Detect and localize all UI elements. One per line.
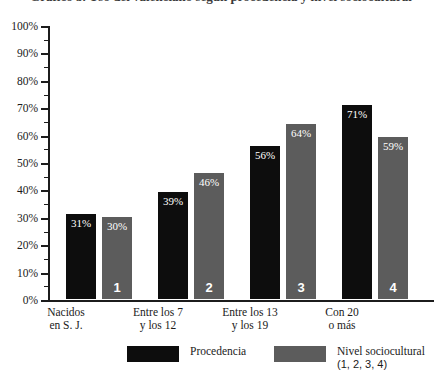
y-tick-minor-75 [44, 95, 48, 96]
y-tick-100 [41, 26, 48, 28]
plot-area: 100% 90% 80% 70% 60% 50% 40% 30% 20% 10%… [48, 26, 434, 301]
y-label-40: 40% [17, 184, 38, 196]
legend-label-nivel-line1: Nivel sociocultural [337, 345, 425, 358]
bar-procedencia-3[interactable]: 56% [250, 146, 280, 299]
bar-nivel-3[interactable]: 64% 3 [286, 124, 316, 299]
y-tick-60 [41, 136, 48, 138]
chart-title-text: Gráfico 3. Uso del valenciano según proc… [0, 0, 442, 5]
bar-nivel-2[interactable]: 46% 2 [194, 173, 224, 299]
y-label-30: 30% [17, 212, 38, 224]
y-label-20: 20% [17, 239, 38, 251]
y-tick-minor-95 [44, 40, 48, 41]
y-label-70: 70% [17, 102, 38, 114]
bar-procedencia-2[interactable]: 39% [158, 192, 188, 299]
chart-legend: Procedencia Nivel sociocultural (1, 2, 3… [0, 345, 442, 379]
y-tick-10 [41, 273, 48, 275]
y-tick-40 [41, 190, 48, 192]
y-tick-70 [41, 108, 48, 110]
bar-value-label: 30% [102, 221, 132, 232]
bar-procedencia-1[interactable]: 31% [66, 214, 96, 299]
bar-group-number: 3 [286, 281, 316, 294]
y-label-80: 80% [17, 75, 38, 87]
y-tick-80 [41, 81, 48, 83]
legend-item-nivel[interactable]: Nivel sociocultural (1, 2, 3, 4) [274, 345, 425, 371]
bar-procedencia-4[interactable]: 71% [342, 105, 372, 300]
y-label-100: 100% [11, 20, 38, 32]
y-tick-minor-55 [44, 149, 48, 150]
y-tick-20 [41, 245, 48, 247]
bar-group-number: 4 [378, 281, 408, 294]
y-tick-30 [41, 218, 48, 220]
legend-label-procedencia: Procedencia [190, 345, 246, 358]
legend-label-nivel: Nivel sociocultural (1, 2, 3, 4) [337, 345, 425, 371]
bar-chart: Gráfico 3. Uso del valenciano según proc… [0, 0, 442, 379]
y-tick-minor-65 [44, 122, 48, 123]
bar-value-label: 59% [378, 141, 408, 152]
y-label-10: 10% [17, 267, 38, 279]
legend-swatch-nivel [274, 346, 326, 362]
bar-nivel-4[interactable]: 59% 4 [378, 137, 408, 299]
bar-value-label: 46% [194, 177, 224, 188]
y-tick-0 [41, 300, 48, 302]
legend-label-nivel-line2: (1, 2, 3, 4) [337, 358, 425, 371]
bar-group-number: 1 [102, 281, 132, 294]
category-label-4-line2: o más [287, 319, 397, 332]
y-tick-minor-15 [44, 259, 48, 260]
bar-value-label: 64% [286, 128, 316, 139]
y-tick-50 [41, 163, 48, 165]
y-tick-minor-45 [44, 177, 48, 178]
y-tick-minor-5 [44, 286, 48, 287]
y-tick-minor-85 [44, 67, 48, 68]
y-label-90: 90% [17, 47, 38, 59]
y-label-50: 50% [17, 157, 38, 169]
y-label-0: 0% [23, 294, 38, 306]
y-tick-minor-35 [44, 204, 48, 205]
x-axis-baseline [48, 300, 434, 302]
legend-item-procedencia[interactable]: Procedencia [127, 345, 246, 362]
bar-group-number: 2 [194, 281, 224, 294]
bar-value-label: 39% [158, 196, 188, 207]
bar-value-label: 31% [66, 218, 96, 229]
bar-value-label: 56% [250, 150, 280, 161]
legend-swatch-procedencia [127, 346, 179, 362]
bar-nivel-1[interactable]: 30% 1 [102, 217, 132, 299]
category-label-4-line1: Con 20 [287, 306, 397, 319]
chart-title: Gráfico 3. Uso del valenciano según proc… [0, 0, 442, 9]
bar-value-label: 71% [342, 109, 372, 120]
y-label-60: 60% [17, 130, 38, 142]
y-axis-line [48, 26, 50, 302]
y-tick-minor-25 [44, 232, 48, 233]
category-label-4: Con 20 o más [287, 306, 397, 332]
y-tick-90 [41, 53, 48, 55]
